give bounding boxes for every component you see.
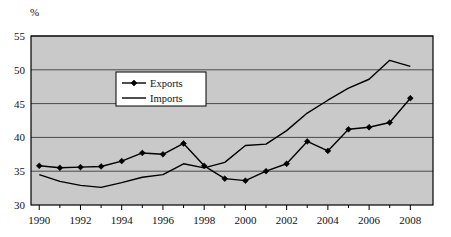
x-tick-label: 1998 [193,214,216,226]
x-tick-label: 2002 [276,214,298,226]
x-tick-label: 1996 [152,214,175,226]
y-tick-label: 40 [14,131,26,143]
x-tick-label: 2000 [234,214,257,226]
x-tick-label: 2006 [358,214,381,226]
chart-legend: ExportsImports [116,72,206,106]
y-tick-label: 35 [14,165,26,177]
line-chart: 303540455055 199019921994199619982000200… [0,0,451,237]
x-tick-label: 1992 [69,214,91,226]
x-tick-label: 2008 [399,214,422,226]
y-tick-label: 55 [14,30,26,42]
x-tick-label: 1994 [111,214,134,226]
x-tick-label: 1990 [28,214,51,226]
y-axis-unit-label: % [30,6,39,18]
legend-label: Exports [150,78,183,89]
y-tick-label: 50 [14,64,26,76]
y-tick-label: 30 [14,199,26,211]
chart-container: 303540455055 199019921994199619982000200… [0,0,451,237]
x-tick-label: 2004 [317,214,340,226]
y-tick-label: 45 [14,98,26,110]
legend-label: Imports [150,93,183,104]
